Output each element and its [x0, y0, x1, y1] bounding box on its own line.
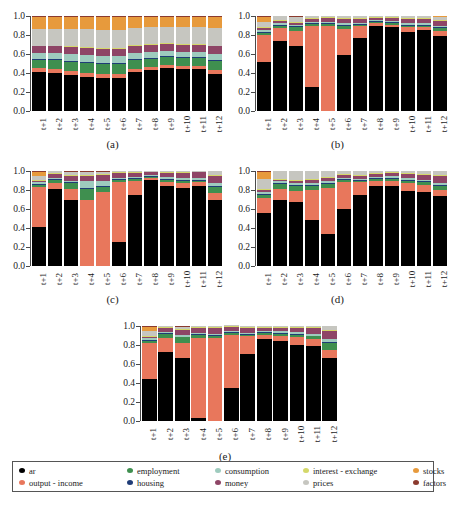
legend-swatch-icon — [127, 480, 133, 485]
panel-e: 1.00.80.60.40.20.0 t+1t+2t+3t+4t+5t+6t+7… — [110, 310, 340, 462]
legend-item: stocks — [413, 465, 450, 477]
stacked-bar — [176, 16, 190, 111]
stacked-bar — [208, 326, 223, 421]
stacked-bar — [273, 16, 287, 111]
bar-segment — [192, 27, 206, 43]
y-tick-label: 1.0 — [123, 321, 135, 331]
x-tick-label-text: t+3 — [71, 118, 80, 130]
x-tick-label-text: t+11 — [424, 271, 433, 287]
x-tick-label-text: t+6 — [344, 118, 353, 130]
legend-label: prices — [313, 478, 333, 488]
y-tick: 0.6 — [110, 364, 140, 365]
y-tick-mark — [251, 171, 255, 172]
bar-segment — [208, 28, 222, 45]
bar-segment — [32, 17, 46, 29]
y-tick-mark — [251, 92, 255, 93]
bar-segment — [433, 176, 447, 184]
bar-segment — [176, 58, 190, 67]
stacked-bar — [353, 171, 367, 266]
legend-swatch-icon — [19, 480, 25, 485]
y-tick-mark — [26, 54, 30, 55]
bar-segment — [305, 26, 319, 87]
x-tick-label-text: t+10 — [297, 426, 306, 443]
y-tick-mark — [251, 16, 255, 17]
x-tick-label-text: t+5 — [103, 118, 112, 130]
stacked-bar — [353, 16, 367, 111]
y-tick-mark — [136, 345, 140, 346]
y-tick-label: 0.4 — [13, 223, 25, 233]
y-tick-label: 0.6 — [13, 204, 25, 214]
legend-swatch-icon — [215, 480, 221, 485]
x-tick-label-text: t+12 — [330, 426, 339, 443]
bar-segment — [158, 352, 173, 421]
bar-segment — [64, 29, 78, 46]
bar-segment — [353, 195, 367, 266]
y-tick-label: 0.0 — [13, 106, 25, 116]
x-tick-label-text: t+4 — [312, 273, 321, 285]
panel-a: 1.00.80.60.40.20.0 t+1t+2t+3t+4t+5t+6t+7… — [0, 0, 225, 152]
bar-segment — [96, 17, 110, 30]
bar-segment — [208, 17, 222, 28]
y-tick: 0.4 — [110, 383, 140, 384]
stacked-bar — [32, 16, 46, 111]
bar-segment — [48, 60, 62, 70]
bar-segment — [160, 57, 174, 66]
legend-item: housing — [127, 477, 215, 489]
bar-segment — [305, 190, 319, 220]
bar-segment — [273, 41, 287, 111]
bar-segment — [192, 17, 206, 27]
figure-canvas: 1.00.80.60.40.20.0 t+1t+2t+3t+4t+5t+6t+7… — [0, 0, 450, 505]
x-tick-label-text: t+12 — [440, 271, 449, 288]
x-tick-label: t+5 — [208, 423, 223, 453]
x-tick-label: t+10 — [290, 423, 305, 453]
stacked-bar — [401, 171, 415, 266]
x-tick-label: t+11 — [306, 423, 321, 453]
bar-segment — [321, 188, 335, 234]
bar-segment — [128, 17, 142, 28]
y-tick-mark — [26, 190, 30, 191]
x-tick-label-text: t+4 — [312, 118, 321, 130]
y-tick-label: 0.6 — [123, 359, 135, 369]
bar-segment — [160, 17, 174, 27]
bar-segment — [128, 28, 142, 44]
bar-segment — [80, 55, 94, 62]
bar-segment — [48, 29, 62, 45]
bar-segment — [273, 341, 288, 421]
y-tick: 0.6 — [0, 209, 30, 210]
y-tick-mark — [26, 35, 30, 36]
y-tick: 0.8 — [0, 190, 30, 191]
x-tick-label: t+3 — [175, 423, 190, 453]
stacked-bar — [192, 171, 206, 266]
y-axis-c — [30, 171, 31, 266]
x-tick-label-text: t+5 — [328, 273, 337, 285]
y-tick: 0.0 — [225, 266, 255, 267]
bar-segment — [306, 339, 321, 346]
y-tick-mark — [136, 383, 140, 384]
bar-segment — [160, 27, 174, 42]
bar-segment — [273, 171, 287, 179]
stacked-bar — [322, 326, 337, 421]
legend-swatch-icon — [413, 468, 419, 473]
bar-segment — [192, 58, 206, 67]
stacked-bar — [128, 171, 142, 266]
y-tick: 0.6 — [225, 54, 255, 55]
legend-grid: aroutput - incomeemploymenthousingconsum… — [19, 465, 429, 488]
bar-segment — [64, 75, 78, 111]
bar-segment — [160, 44, 174, 52]
y-tick: 1.0 — [225, 171, 255, 172]
stacked-bar — [208, 16, 222, 111]
bar-segment — [175, 358, 190, 421]
y-tick: 0.0 — [0, 266, 30, 267]
legend-item: employment — [127, 465, 215, 477]
y-tick: 0.6 — [0, 54, 30, 55]
bar-segment — [80, 200, 94, 267]
y-tick: 0.4 — [0, 228, 30, 229]
bar-segment — [191, 338, 206, 418]
bar-segment — [80, 181, 94, 188]
legend-swatch-icon — [413, 480, 419, 485]
bar-segment — [257, 35, 271, 62]
legend-item: output - income — [19, 477, 127, 489]
bar-segment — [337, 209, 351, 266]
bar-segment — [80, 189, 94, 199]
bar-segment — [128, 46, 142, 54]
